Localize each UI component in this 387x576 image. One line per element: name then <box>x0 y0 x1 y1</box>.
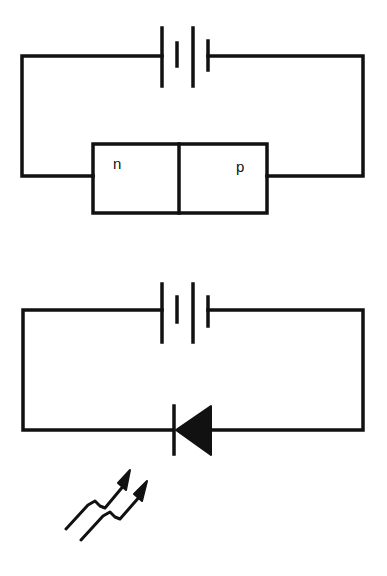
n-region-label: n <box>113 155 121 172</box>
diode-icon <box>174 406 211 455</box>
light-emission-arrows-icon <box>66 470 147 540</box>
top-circuit <box>22 28 363 213</box>
bottom-circuit <box>23 284 363 455</box>
top-battery-icon <box>162 28 208 86</box>
p-region-label: p <box>236 158 244 175</box>
circuit-diagram: n p <box>0 0 387 576</box>
bottom-battery-icon <box>162 284 208 342</box>
